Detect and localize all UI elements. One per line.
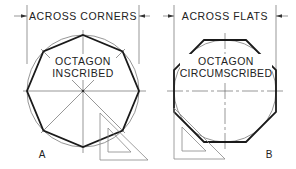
octagon-title-b-line2: CIRCUMSCRIBED [180, 67, 273, 79]
panel-label-a: A [39, 149, 46, 160]
octagon-title-b-line1: OCTAGON [198, 55, 254, 67]
panel-label-b: B [266, 149, 273, 160]
panel-a: ACROSS CORNERS OCTAGON INSCRIBED A [14, 5, 150, 160]
octagon-construction-diagram: ACROSS CORNERS OCTAGON INSCRIBED A [0, 0, 296, 169]
panel-b: ACROSS FLATS OCTAGON CIRCUMSCRIBED B [163, 5, 288, 160]
across-flats-label: ACROSS FLATS [182, 10, 268, 22]
octagon-title-a-line1: OCTAGON [55, 55, 111, 67]
octagon-title-a-line2: INSCRIBED [52, 67, 114, 79]
across-corners-label: ACROSS CORNERS [29, 10, 137, 22]
triangle-45-b [174, 108, 225, 159]
